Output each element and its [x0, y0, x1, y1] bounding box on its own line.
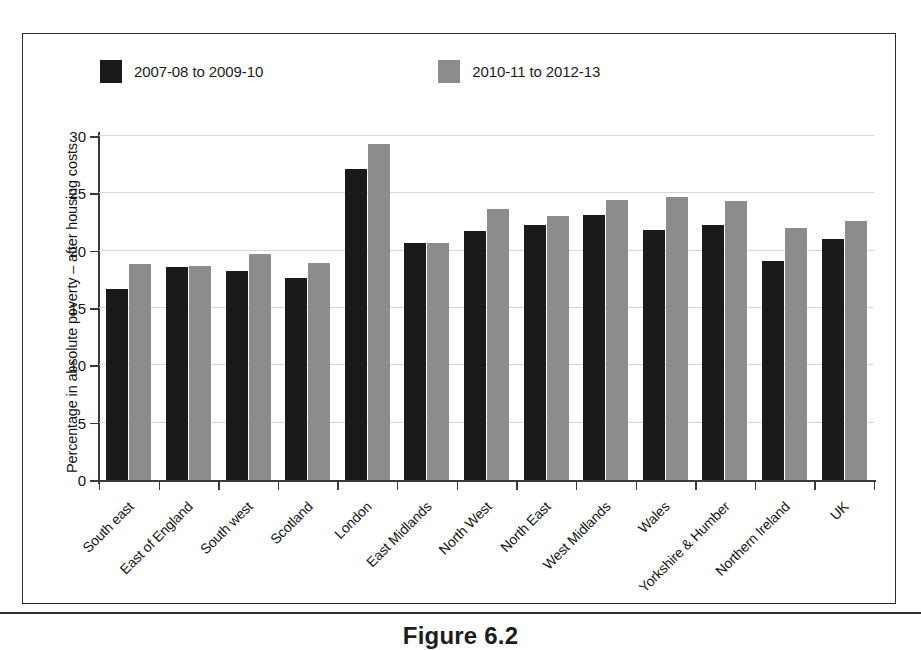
x-axis-label: Northern Ireland [675, 498, 792, 615]
x-tick-mark [457, 481, 458, 490]
x-axis-label: South east [19, 498, 136, 615]
x-tick-mark [516, 481, 517, 490]
x-tick-mark [636, 481, 637, 490]
y-tick-mark [90, 136, 99, 138]
x-axis-label: UK [734, 498, 851, 615]
legend-label-series-1: 2007-08 to 2009-10 [134, 63, 263, 80]
legend-swatch-series-2 [438, 60, 460, 83]
y-tick-mark [90, 251, 99, 253]
y-tick-mark [90, 480, 99, 482]
x-axis-label: South west [138, 498, 255, 615]
x-tick-mark [874, 481, 875, 490]
x-axis-label: North West [377, 498, 494, 615]
y-tick-mark [90, 308, 99, 310]
x-tick-mark [576, 481, 577, 490]
x-axis-label: East of England [79, 498, 196, 615]
y-tick-mark [90, 193, 99, 195]
x-tick-mark [218, 481, 219, 490]
x-axis-label: Wales [556, 498, 673, 615]
x-tick-mark [278, 481, 279, 490]
legend-swatch-series-1 [100, 60, 122, 83]
legend-item-series-2: 2010-11 to 2012-13 [438, 60, 600, 83]
legend-item-series-1: 2007-08 to 2009-10 [100, 60, 263, 83]
y-tick-mark [90, 365, 99, 367]
legend-label-series-2: 2010-11 to 2012-13 [472, 63, 600, 80]
x-tick-mark [755, 481, 756, 490]
x-tick-mark [814, 481, 815, 490]
y-tick-mark [90, 423, 99, 425]
x-axis-label: West Midlands [496, 498, 613, 615]
x-tick-mark [337, 481, 338, 490]
figure-caption: Figure 6.2 [0, 622, 921, 650]
chart-legend: 2007-08 to 2009-10 2010-11 to 2012-13 [100, 60, 600, 83]
x-tick-mark [159, 481, 160, 490]
x-axis-label: Yorkshire & Humber [615, 498, 732, 615]
x-axis-label: North East [436, 498, 553, 615]
x-tick-mark [397, 481, 398, 490]
x-axis-label: London [258, 498, 375, 615]
x-axis-label: East Midlands [317, 498, 434, 615]
x-tick-mark [695, 481, 696, 490]
x-axis-label: Scotland [198, 498, 315, 615]
caption-divider [0, 612, 921, 614]
x-tick-mark [99, 481, 100, 490]
